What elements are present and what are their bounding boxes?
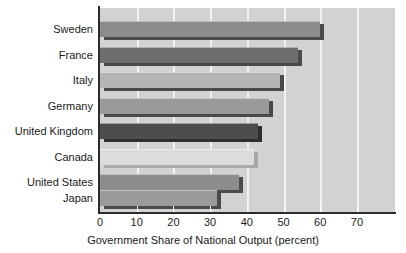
category-axis-labels: Sweden France Italy Germany United Kingd… <box>0 8 95 212</box>
x-tick-label-20: 20 <box>158 216 188 228</box>
bar-france[interactable] <box>100 47 298 63</box>
bar-row <box>100 146 395 172</box>
x-tick-label-60: 60 <box>305 216 335 228</box>
x-tick-label-10: 10 <box>122 216 152 228</box>
x-tick-label-0: 0 <box>85 216 115 228</box>
bar-shadow-bottom-japan <box>104 206 221 209</box>
bar-japan[interactable] <box>100 190 217 206</box>
category-label-italy: Italy <box>0 74 93 86</box>
category-label-sweden: Sweden <box>0 23 93 35</box>
bar-shadow-bottom-france <box>104 63 302 66</box>
bar-row <box>100 120 395 146</box>
tick-mark-10 <box>137 206 138 212</box>
bar-united-kingdom[interactable] <box>100 123 258 139</box>
category-label-united-states: United States <box>0 176 93 188</box>
category-label-united-kingdom: United Kingdom <box>0 125 93 137</box>
bar-row <box>100 18 395 44</box>
bar-sweden[interactable] <box>100 21 320 37</box>
x-tick-label-50: 50 <box>269 216 299 228</box>
x-tick-label-30: 30 <box>195 216 225 228</box>
category-label-germany: Germany <box>0 100 93 112</box>
tick-mark-70 <box>357 206 358 212</box>
x-axis-title: Government Share of National Output (per… <box>0 234 406 246</box>
tick-mark-50 <box>284 206 285 212</box>
tick-mark-40 <box>247 206 248 212</box>
bar-shadow-bottom-canada <box>104 165 258 168</box>
y-axis-line <box>98 6 100 214</box>
bar-germany[interactable] <box>100 98 269 114</box>
x-tick-label-40: 40 <box>232 216 262 228</box>
tick-mark-30 <box>210 206 211 212</box>
bar-shadow-bottom-united-kingdom <box>104 139 262 142</box>
bar-row <box>100 44 395 70</box>
tick-mark-20 <box>173 206 174 212</box>
bar-shadow-bottom-italy <box>104 88 284 91</box>
category-label-canada: Canada <box>0 151 93 163</box>
category-label-france: France <box>0 49 93 61</box>
tick-mark-60 <box>320 206 321 212</box>
bar-italy[interactable] <box>100 72 280 88</box>
x-axis-tick-labels: 0 10 20 30 40 50 60 70 <box>0 216 406 230</box>
category-label-japan: Japan <box>0 192 93 204</box>
bar-row <box>100 95 395 121</box>
plot-area <box>100 8 395 212</box>
x-axis-line <box>98 212 396 214</box>
bar-row <box>100 69 395 95</box>
bar-chart-figure: Sweden France Italy Germany United Kingd… <box>0 0 406 253</box>
bar-canada[interactable] <box>100 149 254 165</box>
bar-shadow-bottom-germany <box>104 114 273 117</box>
x-tick-label-70: 70 <box>342 216 372 228</box>
bar-shadow-bottom-sweden <box>104 37 324 40</box>
